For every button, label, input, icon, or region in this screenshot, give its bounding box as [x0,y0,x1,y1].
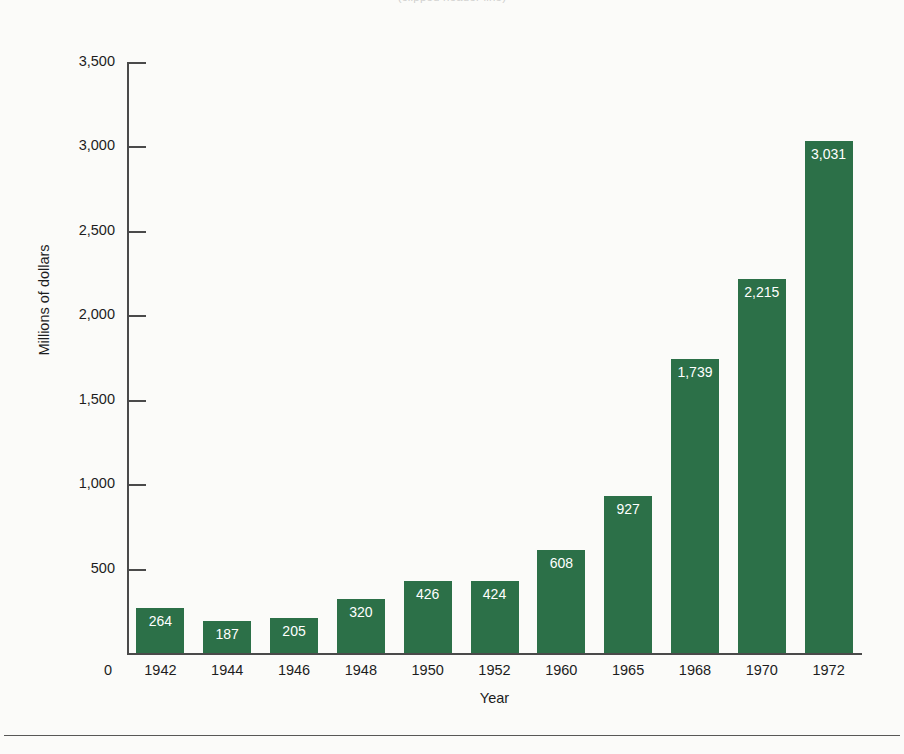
y-axis-line [127,62,129,655]
y-tick-label: 3,500 [45,53,115,69]
bar-value-label: 426 [404,586,452,602]
bar-value-label: 1,739 [671,364,719,380]
y-tick-mark [129,315,146,317]
y-tick-label: 500 [45,560,115,576]
y-tick-label: 3,000 [45,137,115,153]
y-tick-label: 2,500 [45,222,115,238]
bar-value-label: 2,215 [738,284,786,300]
y-tick: 3,000 [127,146,146,148]
y-tick-mark [129,146,146,148]
bar-value-label: 205 [270,623,318,639]
bar-chart-figure: Millions of dollars 5001,0001,5002,0002,… [0,0,904,754]
bar[interactable]: 608 [537,550,585,653]
y-tick: 3,500 [127,62,146,64]
bar[interactable]: 424 [471,581,519,653]
y-tick-label: 2,000 [45,306,115,322]
y-tick-label: 1,000 [45,475,115,491]
bar[interactable]: 1,739 [671,359,719,653]
y-tick-mark [129,62,146,64]
y-tick: 500 [127,569,146,571]
bar[interactable]: 426 [404,581,452,653]
plot-area: 5001,0001,5002,0002,5003,0003,500 264187… [127,62,862,655]
bar-value-label: 320 [337,604,385,620]
bar-value-label: 3,031 [805,146,853,162]
x-axis-line [127,653,862,655]
bar-value-label: 424 [471,586,519,602]
footer-rule [4,735,900,736]
y-tick-mark [129,569,146,571]
bar[interactable]: 187 [203,621,251,653]
y-tick-mark [129,231,146,233]
x-category-label: 1972 [789,662,869,678]
bar[interactable]: 927 [604,496,652,653]
bar-value-label: 264 [136,613,184,629]
bar[interactable]: 320 [337,599,385,653]
bar-value-label: 927 [604,501,652,517]
x-axis-title: Year [127,690,862,706]
bar[interactable]: 264 [136,608,184,653]
bar[interactable]: 3,031 [805,141,853,653]
y-tick: 2,500 [127,231,146,233]
bar-value-label: 187 [203,626,251,642]
bar[interactable]: 205 [270,618,318,653]
y-tick-mark [129,484,146,486]
y-tick: 1,500 [127,400,146,402]
y-tick: 1,000 [127,484,146,486]
y-tick-mark [129,400,146,402]
bar[interactable]: 2,215 [738,279,786,653]
y-axis-zero-label: 0 [86,662,112,678]
y-tick: 2,000 [127,315,146,317]
bar-value-label: 608 [537,555,585,571]
y-tick-label: 1,500 [45,391,115,407]
